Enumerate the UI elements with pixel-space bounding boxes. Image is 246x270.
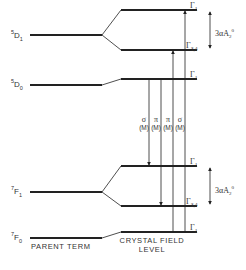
connector-7F1-lower bbox=[102, 192, 121, 206]
caption-crystal-field-level: CRYSTAL FIELD LEVEL bbox=[118, 236, 186, 254]
label-7F1: 7F1 bbox=[11, 187, 22, 196]
label-7F1-gamma1: Γ1 bbox=[190, 157, 197, 170]
label-splitting-7F1: 3αA20 bbox=[215, 183, 234, 198]
label-7F0-gamma1: Γ1 bbox=[190, 223, 197, 236]
label-5D1: 5D1 bbox=[11, 31, 23, 40]
label-transition-pi-down: π(M) bbox=[150, 116, 162, 132]
label-transition-sigma-up: σ(M) bbox=[174, 116, 186, 132]
label-transition-sigma-down: σ(M) bbox=[138, 116, 150, 132]
label-7F0: 7F0 bbox=[11, 233, 22, 242]
label-splitting-5D1: 3αA20 bbox=[215, 26, 234, 41]
energy-level-diagram bbox=[0, 0, 246, 270]
label-5D0-gamma1: Γ1 bbox=[190, 70, 197, 83]
connector-5D1-lower bbox=[102, 35, 121, 50]
connector-5D1-upper bbox=[102, 10, 121, 35]
label-7F1-gamma34: Γ3,4 bbox=[186, 197, 198, 210]
caption-parent-term: PARENT TERM bbox=[31, 242, 91, 251]
label-5D0: 5D0 bbox=[11, 80, 23, 89]
label-5D1-gamma34: Γ3,4 bbox=[186, 41, 198, 54]
label-5D1-gamma1: Γ1 bbox=[190, 1, 197, 14]
label-transition-pi-up: π(M) bbox=[162, 116, 174, 132]
connector-5D0 bbox=[102, 79, 121, 85]
connector-7F1-upper bbox=[102, 166, 121, 192]
